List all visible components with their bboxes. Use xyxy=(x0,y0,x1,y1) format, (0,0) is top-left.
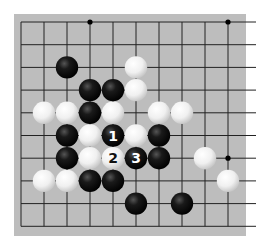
black-stone[interactable] xyxy=(125,192,147,214)
white-stone[interactable] xyxy=(33,102,55,124)
black-stone-body xyxy=(125,192,147,214)
white-stone-body xyxy=(56,102,78,124)
white-stone[interactable] xyxy=(194,147,216,169)
white-stone-body xyxy=(102,102,124,124)
white-stone[interactable] xyxy=(56,102,78,124)
black-stone-body xyxy=(148,147,170,169)
black-stone[interactable] xyxy=(56,124,78,146)
black-stone[interactable] xyxy=(79,170,101,192)
black-stone[interactable] xyxy=(148,147,170,169)
black-stone-body xyxy=(56,56,78,78)
white-stone[interactable] xyxy=(125,56,147,78)
white-stone[interactable] xyxy=(125,124,147,146)
black-stone-body xyxy=(79,170,101,192)
black-stone[interactable] xyxy=(102,170,124,192)
black-stone-body xyxy=(102,170,124,192)
black-stone[interactable] xyxy=(79,79,101,101)
white-stone[interactable] xyxy=(102,102,124,124)
black-stone[interactable] xyxy=(171,192,193,214)
white-stone-body xyxy=(33,102,55,124)
white-stone-body xyxy=(125,124,147,146)
white-stone[interactable] xyxy=(33,170,55,192)
black-stone-body xyxy=(56,124,78,146)
move-number-label: 3 xyxy=(131,150,141,166)
white-stone-body xyxy=(171,102,193,124)
white-stone[interactable] xyxy=(148,102,170,124)
black-stone[interactable] xyxy=(148,124,170,146)
black-stone-body xyxy=(171,192,193,214)
star-point xyxy=(225,156,230,161)
white-stone[interactable]: 2 xyxy=(102,147,124,169)
white-stone[interactable] xyxy=(171,102,193,124)
black-stone[interactable] xyxy=(102,79,124,101)
white-stone-body xyxy=(217,170,239,192)
black-stone-body xyxy=(102,79,124,101)
white-stone[interactable] xyxy=(79,147,101,169)
move-number-label: 2 xyxy=(108,150,118,166)
white-stone-body xyxy=(125,56,147,78)
white-stone[interactable] xyxy=(56,170,78,192)
white-stone-body xyxy=(194,147,216,169)
star-point xyxy=(225,19,230,24)
white-stone-body xyxy=(79,124,101,146)
go-board: 213 xyxy=(0,0,256,248)
white-stone-body xyxy=(33,170,55,192)
move-number-label: 1 xyxy=(108,128,118,144)
white-stone[interactable] xyxy=(217,170,239,192)
black-stone[interactable]: 1 xyxy=(102,124,124,146)
white-stone-body xyxy=(125,79,147,101)
black-stone-body xyxy=(148,124,170,146)
white-stone[interactable] xyxy=(125,79,147,101)
white-stone-body xyxy=(79,147,101,169)
black-stone[interactable] xyxy=(79,102,101,124)
black-stone[interactable]: 3 xyxy=(125,147,147,169)
white-stone-body xyxy=(148,102,170,124)
white-stone[interactable] xyxy=(79,124,101,146)
black-stone-body xyxy=(79,79,101,101)
black-stone[interactable] xyxy=(56,56,78,78)
white-stone-body xyxy=(56,170,78,192)
black-stone[interactable] xyxy=(56,147,78,169)
black-stone-body xyxy=(56,147,78,169)
black-stone-body xyxy=(79,102,101,124)
star-point xyxy=(87,19,92,24)
